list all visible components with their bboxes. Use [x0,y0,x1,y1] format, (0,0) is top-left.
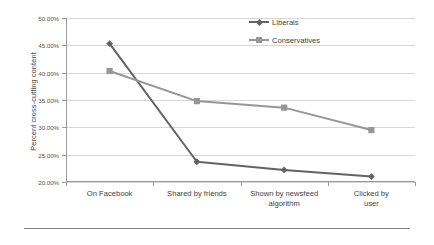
series-line-liberals [110,44,372,177]
y-tick-label: 30.00% [38,124,59,131]
chart-figure: Percent cross-cutting content 20.00%25.0… [0,0,434,245]
legend-label: Liberals [272,18,299,27]
x-tick-label: Clicked by user [350,189,394,209]
y-axis-title: Percent cross-cutting content [29,12,38,192]
x-tick-label: Shared by friends [167,189,227,199]
data-point-liberals [281,167,288,174]
x-tick [328,182,329,186]
x-tick [66,182,67,186]
data-point-liberals [368,173,375,180]
series-layer [66,18,415,182]
legend-item-liberals[interactable]: Liberals [249,13,349,31]
legend-label: Conservatives [272,36,320,45]
x-tick-label: Shown by newsfeed algorithm [250,189,318,209]
x-tick-label: On Facebook [87,189,133,199]
data-point-conservatives [281,105,287,111]
data-point-conservatives [107,68,113,74]
y-tick-label: 20.00% [38,179,59,186]
data-point-conservatives [368,127,374,133]
legend-item-conservatives[interactable]: Conservatives [249,31,349,49]
x-tick [241,182,242,186]
plot-area: 20.00%25.00%30.00%35.00%40.00%45.00%50.0… [66,18,415,182]
chart-legend: LiberalsConservatives [249,13,349,49]
y-tick-label: 25.00% [38,151,59,158]
x-tick [153,182,154,186]
bottom-divider [24,228,410,229]
x-tick [415,182,416,186]
series-line-conservatives [110,71,372,130]
y-tick-label: 45.00% [38,42,59,49]
data-point-conservatives [194,98,200,104]
y-tick-label: 50.00% [38,15,59,22]
y-tick-label: 35.00% [38,97,59,104]
legend-marker-diamond-icon [249,17,269,27]
legend-marker-square-icon [249,35,269,45]
y-tick-label: 40.00% [38,69,59,76]
